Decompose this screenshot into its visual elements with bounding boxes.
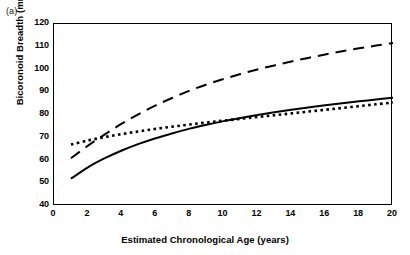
y-tick-label: 90 <box>7 85 49 95</box>
x-tick-label: 12 <box>241 208 271 218</box>
y-tick-label: 70 <box>7 131 49 141</box>
x-tick-label: 18 <box>343 208 373 218</box>
x-axis-title: Estimated Chronological Age (years) <box>0 234 410 245</box>
figure-panel-a: (a) Bicoronoid Breadth (mm) Estimated Ch… <box>0 0 410 255</box>
curve-dotted-curve <box>71 102 393 144</box>
x-tick-label: 20 <box>377 208 407 218</box>
x-tick-label: 4 <box>106 208 136 218</box>
y-tick-label: 50 <box>7 176 49 186</box>
x-tick-label: 14 <box>275 208 305 218</box>
curve-solid-curve <box>71 98 393 179</box>
x-tick-label: 2 <box>72 208 102 218</box>
y-tick-label: 100 <box>7 63 49 73</box>
y-tick-label: 60 <box>7 154 49 164</box>
plot-area <box>53 23 392 205</box>
x-tick-label: 0 <box>38 208 68 218</box>
x-tick-label: 10 <box>208 208 238 218</box>
y-tick-label: 80 <box>7 108 49 118</box>
curve-long-dashed-curve <box>71 43 393 158</box>
x-tick-label: 16 <box>309 208 339 218</box>
y-tick-label: 120 <box>7 17 49 27</box>
y-tick-label: 110 <box>7 40 49 50</box>
x-tick-label: 6 <box>140 208 170 218</box>
x-tick-label: 8 <box>174 208 204 218</box>
plot-curves <box>54 24 393 206</box>
